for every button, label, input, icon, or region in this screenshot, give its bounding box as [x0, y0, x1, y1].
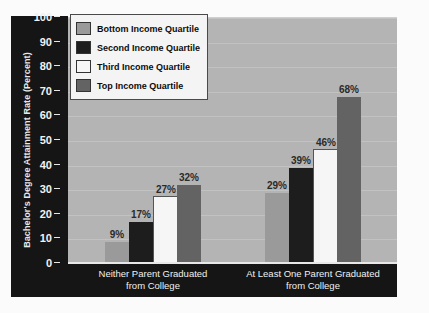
y-axis-tick-60: 60	[20, 110, 52, 120]
bar[interactable]: 39%	[289, 168, 313, 264]
bar[interactable]: 32%	[177, 185, 201, 264]
y-axis-tick-80: 80	[20, 61, 52, 71]
bar[interactable]: 29%	[265, 193, 289, 264]
y-axis-tick-90: 90	[20, 37, 52, 47]
bar-value-label: 27%	[156, 184, 176, 195]
y-axis-tick-mark	[54, 188, 60, 189]
bar[interactable]: 9%	[105, 242, 129, 264]
chart-figure: Bachelor's Degree Attainment Rate (Perce…	[0, 0, 429, 313]
legend-swatch-icon	[76, 22, 91, 35]
y-axis-tick-30: 30	[20, 184, 52, 194]
y-axis-tick-70: 70	[20, 86, 52, 96]
bar-value-label: 32%	[179, 172, 199, 183]
legend-item-4[interactable]: Top Income Quartile	[76, 76, 202, 95]
y-axis-tick-mark	[54, 41, 60, 42]
y-axis-tick-mark	[54, 237, 60, 238]
x-axis-category-line: from College	[213, 280, 413, 292]
bar-value-label: 9%	[110, 229, 124, 240]
legend-item-1[interactable]: Bottom Income Quartile	[76, 19, 202, 38]
legend-item-3[interactable]: Third Income Quartile	[76, 57, 202, 76]
bar-group-2: 29%39%46%68%	[265, 18, 361, 264]
bar[interactable]: 68%	[337, 97, 361, 264]
bar-value-label: 17%	[131, 209, 151, 220]
y-axis-band	[11, 16, 68, 297]
y-axis-tick-mark	[54, 114, 60, 115]
y-axis-tick-mark	[54, 164, 60, 165]
bar-value-label: 39%	[291, 155, 311, 166]
legend-label: Third Income Quartile	[97, 62, 190, 72]
legend-label: Top Income Quartile	[97, 81, 183, 91]
bar-value-label: 29%	[267, 180, 287, 191]
bar-value-label: 46%	[316, 137, 336, 148]
y-axis-tick-20: 20	[20, 209, 52, 219]
y-axis-title: Bachelor's Degree Attainment Rate (Perce…	[22, 15, 32, 285]
legend-swatch-icon	[76, 60, 91, 73]
y-axis-tick-0: 0	[20, 258, 52, 268]
y-axis-tick-100: 100	[20, 12, 52, 22]
bar[interactable]: 27%	[153, 196, 179, 264]
y-axis-tick-mark	[54, 90, 60, 91]
x-axis-category-line: At Least One Parent Graduated	[213, 268, 413, 280]
legend-label: Second Income Quartile	[97, 43, 200, 53]
legend-swatch-icon	[76, 79, 91, 92]
y-axis-tick-mark	[54, 262, 60, 263]
bar[interactable]: 17%	[129, 222, 153, 264]
y-axis-tick-mark	[54, 16, 60, 17]
y-axis-tick-40: 40	[20, 160, 52, 170]
y-axis-tick-mark	[54, 139, 60, 140]
x-axis-category-2: At Least One Parent Graduatedfrom Colleg…	[213, 268, 413, 292]
legend-item-2[interactable]: Second Income Quartile	[76, 38, 202, 57]
y-axis-tick-mark	[54, 65, 60, 66]
y-axis-tick-10: 10	[20, 233, 52, 243]
y-axis-tick-50: 50	[20, 135, 52, 145]
bar-value-label: 68%	[339, 84, 359, 95]
legend-swatch-icon	[76, 41, 91, 54]
legend-label: Bottom Income Quartile	[97, 24, 199, 34]
plot-baseline	[68, 262, 397, 264]
bar[interactable]: 46%	[313, 149, 339, 264]
y-axis-tick-mark	[54, 213, 60, 214]
legend: Bottom Income QuartileSecond Income Quar…	[70, 14, 208, 100]
